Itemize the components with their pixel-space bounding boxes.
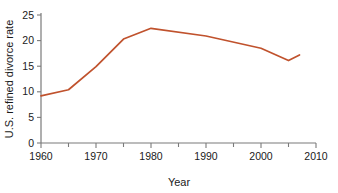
x-tick-label-1980: 1980	[139, 150, 163, 162]
x-tick-label-2000: 2000	[249, 150, 273, 162]
x-axis-title: Year	[168, 176, 191, 188]
y-axis-title: U.S. refined divorce rate	[3, 20, 15, 139]
y-tick-label-15: 15	[22, 60, 34, 72]
y-tick-label-20: 20	[22, 34, 34, 46]
x-tick-label-1990: 1990	[194, 150, 218, 162]
x-tick-label-1960: 1960	[29, 150, 53, 162]
x-tick-label-1970: 1970	[84, 150, 108, 162]
y-tick-label-5: 5	[28, 111, 34, 123]
x-tick-label-2010: 2010	[304, 150, 328, 162]
y-tick-label-25: 25	[22, 9, 34, 21]
y-tick-label-0: 0	[28, 137, 34, 149]
y-tick-label-10: 10	[22, 85, 34, 97]
divorce-rate-line-chart: 0510152025 196019701980199020002010 Year…	[0, 0, 338, 193]
chart-background	[0, 0, 338, 193]
